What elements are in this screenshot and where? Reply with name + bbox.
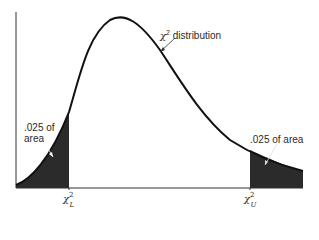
- marker-sub: L: [70, 201, 75, 209]
- marker-sup: 2: [250, 191, 254, 199]
- x-marker-lower: χ2L: [63, 192, 78, 207]
- left-tail-label-line1: .025 of: [24, 122, 55, 133]
- x-marker-upper: χ2U: [244, 192, 260, 207]
- curve-label-text: distribution: [173, 30, 221, 41]
- left-tail-label: .025 of area: [24, 122, 55, 144]
- left-tail-label-line2: area: [24, 133, 55, 144]
- curve-label: χ2 distribution: [160, 27, 221, 41]
- marker-sub: U: [251, 201, 257, 209]
- marker-sup: 2: [69, 191, 73, 199]
- right-tail-label: .025 of area: [250, 134, 303, 145]
